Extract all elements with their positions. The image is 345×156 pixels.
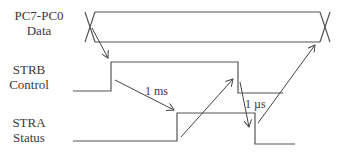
data-bus-waveform xyxy=(85,12,330,42)
signal-desc: Data xyxy=(2,23,76,38)
causality-arrows xyxy=(92,28,315,137)
signal-name: PC7-PC0 xyxy=(2,8,76,23)
arrow-stra-to-strb xyxy=(181,79,233,137)
signal-label-stra: STRA Status xyxy=(0,115,58,145)
signal-label-strb: STRB Control xyxy=(0,62,58,92)
delay-label-1us: 1 µs xyxy=(245,97,266,112)
arrow-stra-to-data xyxy=(258,45,315,123)
signal-name: STRB xyxy=(0,62,58,77)
delay-label-1ms: 1 ms xyxy=(145,84,168,99)
signal-label-data: PC7-PC0 Data xyxy=(2,8,76,38)
strb-waveform xyxy=(73,62,283,93)
signal-name: STRA xyxy=(0,115,58,130)
arrow-data-to-strb xyxy=(92,28,108,58)
signal-desc: Status xyxy=(0,130,58,145)
signal-desc: Control xyxy=(0,77,58,92)
